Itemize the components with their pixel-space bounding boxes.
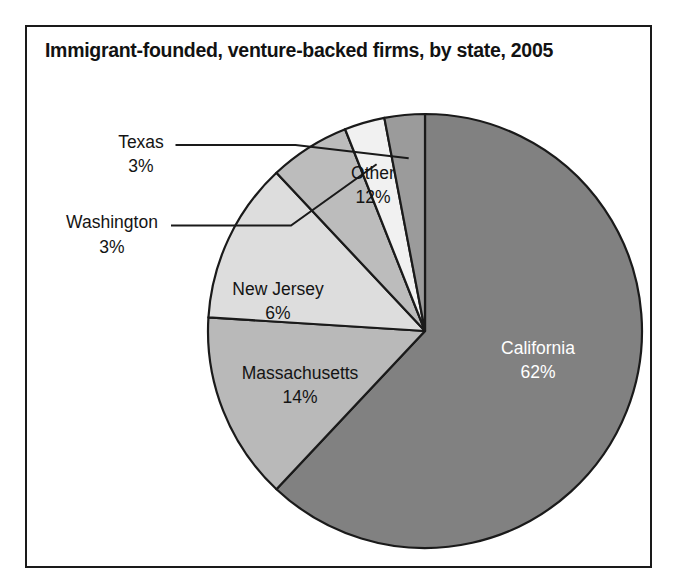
pie-chart: California 62% Massachusetts 14% Other 1… — [0, 0, 681, 586]
pie-label-washington-name: Washington — [66, 212, 158, 232]
pie-label-texas-value: 3% — [128, 156, 153, 176]
pie-label-texas-name: Texas — [118, 132, 164, 152]
pie-label-new-jersey-name: New Jersey — [232, 279, 324, 299]
pie-label-other-name: Other — [351, 163, 395, 183]
chart-figure: Immigrant-founded, venture-backed firms,… — [0, 0, 681, 586]
pie-label-new-jersey-value: 6% — [265, 303, 290, 323]
pie-wedges — [208, 114, 642, 548]
pie-label-washington-value: 3% — [99, 237, 124, 257]
pie-label-washington: Washington 3% — [66, 212, 158, 257]
pie-label-massachusetts-value: 14% — [282, 387, 317, 407]
pie-label-massachusetts-name: Massachusetts — [242, 363, 359, 383]
pie-label-california-value: 62% — [520, 362, 555, 382]
pie-label-california-name: California — [501, 338, 575, 358]
pie-label-texas: Texas 3% — [118, 132, 164, 176]
pie-label-other-value: 12% — [355, 187, 390, 207]
